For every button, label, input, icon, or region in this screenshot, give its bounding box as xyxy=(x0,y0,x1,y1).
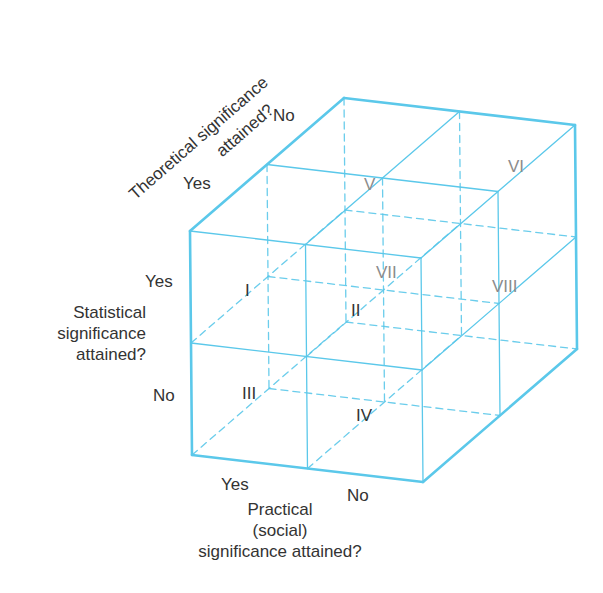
statistical-axis-title: Statistical significance attained? xyxy=(32,302,146,365)
statistical-title-line-2: significance xyxy=(32,323,146,344)
statistical-title-line-1: Statistical xyxy=(32,302,146,323)
cell-label-v: V xyxy=(364,176,375,193)
cell-label-ii: II xyxy=(351,302,360,319)
statistical-title-line-3: attained? xyxy=(32,344,146,365)
cell-label-vii: VII xyxy=(376,264,397,281)
statistical-no-label: No xyxy=(153,387,175,404)
top-back-edge xyxy=(344,98,575,125)
practical-axis-title: Practical (social) significance attained… xyxy=(180,499,380,562)
cell-label-i: I xyxy=(245,282,250,299)
statistical-yes-label: Yes xyxy=(145,273,173,290)
right-back-edge xyxy=(575,125,577,349)
practical-title-line-3: significance attained? xyxy=(180,541,380,562)
practical-title-line-1: Practical xyxy=(180,499,380,520)
cell-label-iii: III xyxy=(242,385,256,402)
front-left-edge xyxy=(190,231,192,455)
top-mid-width xyxy=(267,165,498,192)
practical-title-line-2: (social) xyxy=(180,520,380,541)
practical-yes-label: Yes xyxy=(221,476,249,493)
theoretical-no-label: No xyxy=(273,107,295,124)
cell-label-vi: VI xyxy=(508,158,524,175)
theoretical-yes-label: Yes xyxy=(183,175,211,192)
cell-label-viii: VIII xyxy=(492,278,518,295)
cell-label-iv: IV xyxy=(356,407,372,424)
